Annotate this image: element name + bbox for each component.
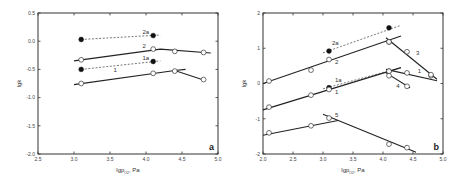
data-point	[79, 57, 84, 62]
data-point	[172, 69, 177, 74]
data-point	[405, 49, 410, 54]
data-point	[267, 79, 272, 84]
y-tick-label: -1	[256, 116, 261, 122]
series-1: 1	[74, 67, 206, 86]
x-tick-label: 4.0	[143, 156, 150, 162]
series-line	[263, 121, 338, 136]
y-tick-label: 2	[257, 10, 260, 16]
data-point	[151, 33, 156, 38]
y-tick-label: 0.5	[28, 10, 35, 16]
series-5: 5	[263, 112, 416, 152]
panel-a-chart: 2.53.03.54.04.55.00.50.0-0.5-1.0-1.5-2.0…	[16, 10, 222, 175]
y-tick-label: -2	[256, 151, 261, 157]
x-axis-title: lgpO2, Pa	[116, 167, 140, 175]
x-tick-label: 2.0	[260, 156, 267, 162]
data-point	[309, 68, 314, 73]
series-line	[81, 61, 160, 70]
x-tick-label: 2.5	[35, 156, 42, 162]
data-point	[79, 67, 84, 72]
series-label: 1a	[142, 55, 149, 61]
data-point	[429, 72, 434, 77]
series-label: 2	[335, 59, 339, 65]
x-tick-label: 3.5	[107, 156, 114, 162]
y-axis-title: lgk	[241, 79, 247, 88]
y-tick-label: 1	[257, 45, 260, 51]
data-point	[405, 71, 410, 76]
series-line	[263, 68, 401, 110]
series-label: 2	[142, 43, 146, 49]
y-axis-title: lgk	[16, 79, 22, 88]
panel-b-chart: 2.02.53.03.54.04.55.0210-1-2lgpO2, Palgk…	[241, 10, 447, 175]
x-tick-label: 5.0	[215, 156, 222, 162]
series-label: 1	[114, 67, 118, 73]
data-point	[79, 81, 84, 86]
data-point	[309, 93, 314, 98]
series-line	[81, 35, 160, 40]
data-point	[387, 69, 392, 74]
series-label: 5	[335, 112, 339, 118]
series-label: 3	[416, 50, 420, 56]
data-point	[201, 77, 206, 82]
series-1a: 1a	[79, 55, 161, 72]
data-point	[387, 142, 392, 147]
data-point	[327, 49, 332, 54]
x-axis-title: lgpO2, Pa	[341, 167, 365, 175]
plot-frame	[38, 13, 218, 154]
series-label: 2a	[332, 40, 339, 46]
data-point	[267, 130, 272, 135]
series-line	[323, 114, 416, 152]
data-point	[267, 105, 272, 110]
data-point	[387, 25, 392, 30]
x-tick-label: 4.0	[380, 156, 387, 162]
y-tick-label: 0.0	[28, 38, 35, 44]
y-tick-label: -1.0	[26, 94, 35, 100]
series-label: 4	[396, 83, 400, 89]
data-point	[327, 57, 332, 62]
figure: 2.53.03.54.04.55.00.50.0-0.5-1.0-1.5-2.0…	[0, 0, 461, 178]
x-tick-label: 4.5	[179, 156, 186, 162]
data-point	[327, 87, 332, 92]
x-tick-label: 3.0	[320, 156, 327, 162]
series-label: 1	[418, 68, 422, 74]
y-tick-label: -1.5	[26, 123, 35, 129]
data-point	[309, 123, 314, 128]
data-point	[201, 50, 206, 55]
panel-letter: b	[434, 142, 440, 152]
x-tick-label: 3.5	[350, 156, 357, 162]
data-point	[405, 145, 410, 150]
series-line	[74, 71, 204, 85]
data-point	[387, 40, 392, 45]
series-2a: 2a	[79, 29, 161, 42]
data-point	[327, 116, 332, 121]
y-tick-label: -2.0	[26, 151, 35, 157]
y-tick-label: 0	[257, 80, 260, 86]
series-label: 1a	[335, 77, 342, 83]
x-tick-label: 2.5	[290, 156, 297, 162]
data-point	[151, 47, 156, 52]
series-label: 2a	[142, 29, 149, 35]
data-point	[387, 73, 392, 78]
plot-frame	[263, 13, 443, 154]
y-tick-label: -0.5	[26, 66, 35, 72]
data-point	[151, 59, 156, 64]
data-point	[151, 71, 156, 76]
data-point	[172, 49, 177, 54]
data-point	[79, 37, 84, 42]
x-tick-label: 5.0	[440, 156, 447, 162]
panel-letter: a	[209, 142, 215, 152]
data-point	[405, 84, 410, 89]
x-tick-label: 4.5	[410, 156, 417, 162]
x-tick-label: 3.0	[71, 156, 78, 162]
series-label: 1	[335, 89, 339, 95]
